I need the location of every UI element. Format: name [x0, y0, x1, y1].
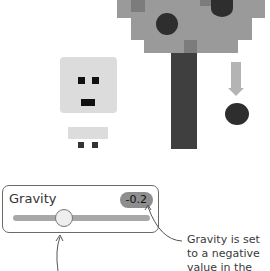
annotation-line: Gravity is set [187, 233, 260, 247]
annotation-arrows [0, 0, 270, 271]
annotation-note: Gravity is set to a negative value in th… [187, 233, 260, 271]
annotation-line: value in the [187, 261, 260, 271]
annotation-line: to a negative [187, 247, 260, 261]
